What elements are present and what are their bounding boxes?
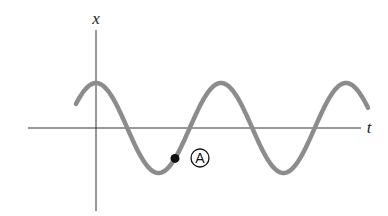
x-axis-label: x [91,9,100,28]
point-a-label-text: A [195,150,205,166]
point-a-marker [171,154,180,163]
oscillation-diagram: x t A [0,0,388,216]
point-a-label: A [191,149,209,167]
t-axis-label: t [367,118,373,137]
